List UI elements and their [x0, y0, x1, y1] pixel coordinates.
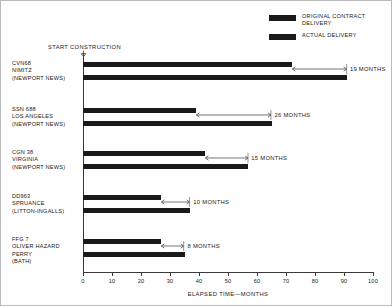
- x-axis-tick-label: 70: [283, 278, 290, 284]
- group-label-dd963: DD963 SPRUANCE (LITTON-INGALLS): [12, 193, 64, 215]
- x-axis-tick-label: 100: [368, 278, 378, 284]
- x-axis-tick: [344, 272, 345, 276]
- bar-actual-ssn-688-los-angeles-newport-news: [83, 121, 272, 126]
- slip-label-cvn68-nimitz-newport-news: 19 MONTHS: [350, 66, 386, 72]
- bar-original-ssn-688-los-angeles-newport-news: [83, 108, 196, 113]
- bar-actual-cvn68-nimitz-newport-news: [83, 75, 347, 80]
- x-axis-tick-label: 90: [341, 278, 348, 284]
- x-axis-tick-label: 40: [196, 278, 203, 284]
- slip-arrow-icon: [196, 110, 271, 120]
- x-axis-tick: [141, 272, 142, 276]
- slip-annotation-ffg-7-oliver-hazard-perry-bath: [161, 241, 184, 250]
- x-axis-tick-label: 60: [254, 278, 261, 284]
- x-axis-tick: [112, 272, 113, 276]
- x-axis-tick: [286, 272, 287, 276]
- bar-original-dd963-spruance-litton-ingalls: [83, 195, 161, 200]
- slip-label-cgn-38-virginia-newport-news: 15 MONTHS: [251, 155, 287, 161]
- x-axis-tick: [199, 272, 200, 276]
- x-axis-tick: [315, 272, 316, 276]
- bar-original-cgn-38-virginia-newport-news: [83, 151, 205, 156]
- bar-actual-cgn-38-virginia-newport-news: [83, 164, 248, 169]
- slip-arrow-icon: [205, 153, 249, 163]
- slip-annotation-cvn68-nimitz-newport-news: [292, 64, 347, 73]
- plot-area: 0102030405060708090100 ELAPSED TIME—MONT…: [1, 1, 392, 306]
- group-label-ssn688: SSN 688 LOS ANGELES (NEWPORT NEWS): [12, 106, 65, 128]
- group-label-ffg7: FFG 7 OLIVER HAZARD PERRY (BATH): [12, 236, 60, 266]
- slip-arrow-icon: [292, 64, 347, 74]
- bar-original-cvn68-nimitz-newport-news: [83, 62, 292, 67]
- x-axis-tick: [170, 272, 171, 276]
- slip-arrow-icon: [161, 197, 190, 207]
- slip-label-dd963-spruance-litton-ingalls: 10 MONTHS: [193, 199, 229, 205]
- x-axis-tick: [373, 272, 374, 276]
- x-axis-tick-label: 10: [109, 278, 116, 284]
- bar-actual-dd963-spruance-litton-ingalls: [83, 208, 190, 213]
- x-axis-tick-label: 30: [167, 278, 174, 284]
- slip-label-ffg-7-oliver-hazard-perry-bath: 8 MONTHS: [188, 243, 220, 249]
- x-axis-tick: [257, 272, 258, 276]
- slip-label-ssn-688-los-angeles-newport-news: 26 MONTHS: [275, 112, 311, 118]
- x-axis-tick: [83, 272, 84, 276]
- bar-original-ffg-7-oliver-hazard-perry-bath: [83, 239, 161, 244]
- bar-actual-ffg-7-oliver-hazard-perry-bath: [83, 252, 185, 257]
- x-axis-tick-label: 80: [312, 278, 319, 284]
- x-axis-title: ELAPSED TIME—MONTHS: [83, 291, 373, 297]
- group-label-cvn68: CVN68 NIMITZ (NEWPORT NEWS): [12, 60, 65, 82]
- group-label-cgn38: CGN 38 VIRGINIA (NEWPORT NEWS): [12, 149, 65, 171]
- slip-annotation-cgn-38-virginia-newport-news: [205, 153, 249, 162]
- x-axis-tick-label: 50: [225, 278, 232, 284]
- slip-annotation-dd963-spruance-litton-ingalls: [161, 197, 190, 206]
- x-axis-tick-label: 0: [81, 278, 84, 284]
- slip-annotation-ssn-688-los-angeles-newport-news: [196, 110, 271, 119]
- slip-arrow-icon: [161, 241, 184, 251]
- x-axis-tick-label: 20: [138, 278, 145, 284]
- x-axis-tick: [228, 272, 229, 276]
- chart-page: ORIGINAL CONTRACT DELIVERY ACTUAL DELIVE…: [0, 0, 392, 306]
